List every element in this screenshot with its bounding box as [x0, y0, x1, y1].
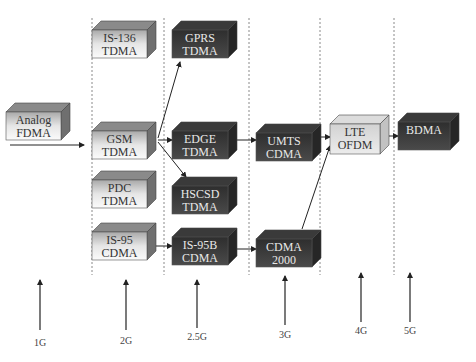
- node-label-line1: GPRS: [185, 31, 215, 45]
- node-label-line1: IS-95B: [183, 238, 218, 252]
- node-umts: UMTSCDMA: [256, 124, 321, 161]
- generation-label: 1G: [34, 337, 46, 348]
- node-label-line2: CDMA: [266, 147, 302, 161]
- box-top-face: [172, 122, 237, 131]
- node-label-line1: GSM: [106, 132, 132, 146]
- node-gsm: GSMTDMA: [92, 122, 156, 159]
- node-label-line1: IS-136: [103, 31, 136, 45]
- node-label-line1: CDMA: [266, 240, 302, 254]
- node-label-line2: TDMA: [102, 145, 138, 159]
- box-top-face: [398, 113, 459, 122]
- generation-label: 3G: [279, 329, 291, 340]
- node-gprs: GPRSTDMA: [172, 21, 237, 58]
- box-top-face: [172, 177, 237, 186]
- node-is95b: IS-95BCDMA: [172, 228, 237, 265]
- node-label-line2: TDMA: [182, 200, 218, 214]
- node-label-line1: HSCSD: [181, 187, 220, 201]
- node-label-line1: LTE: [345, 125, 366, 139]
- node-label-line2: TDMA: [102, 194, 138, 208]
- technology-evolution-diagram: AnalogFDMAIS-136TDMAGSMTDMAPDCTDMAIS-95C…: [0, 0, 476, 362]
- node-label-line1: Analog: [16, 113, 51, 127]
- box-top-face: [256, 230, 321, 239]
- node-label-line2: TDMA: [102, 44, 138, 58]
- node-label-line1: EDGE: [184, 132, 216, 146]
- node-analog: AnalogFDMA: [6, 103, 70, 140]
- node-hscsd: HSCSDTDMA: [172, 177, 237, 214]
- generation-label: 2G: [120, 335, 132, 346]
- node-cdma2000: CDMA2000: [256, 230, 321, 267]
- box-top-face: [92, 171, 156, 180]
- node-label-line1: BDMA: [406, 123, 442, 137]
- box-top-face: [172, 21, 237, 30]
- node-lte: LTEOFDM: [330, 115, 389, 154]
- node-edge: EDGETDMA: [172, 122, 237, 159]
- node-label-line2: OFDM: [338, 138, 373, 152]
- node-label-line2: TDMA: [182, 145, 218, 159]
- generation-markers: 1G2G2.5G3G4G5G: [34, 273, 416, 348]
- node-label-line1: PDC: [108, 181, 131, 195]
- box-top-face: [92, 223, 156, 232]
- generation-label: 5G: [404, 325, 416, 336]
- node-label-line1: IS-95: [106, 233, 133, 247]
- node-label-line2: 2000: [272, 253, 296, 267]
- box-top-face: [256, 124, 321, 133]
- box-top-face: [172, 228, 237, 237]
- box-top-face: [330, 115, 389, 124]
- technology-nodes: AnalogFDMAIS-136TDMAGSMTDMAPDCTDMAIS-95C…: [6, 21, 459, 267]
- box-top-face: [6, 103, 70, 112]
- box-top-face: [92, 122, 156, 131]
- node-is136: IS-136TDMA: [92, 21, 156, 58]
- node-label-line2: FDMA: [16, 126, 51, 140]
- generation-label: 2.5G: [187, 331, 207, 342]
- node-pdc: PDCTDMA: [92, 171, 156, 208]
- node-is95: IS-95CDMA: [92, 223, 156, 260]
- node-label-line2: CDMA: [182, 251, 218, 265]
- node-label-line2: TDMA: [182, 44, 218, 58]
- box-top-face: [92, 21, 156, 30]
- node-bdma: BDMA: [398, 113, 459, 150]
- node-label-line2: CDMA: [101, 246, 137, 260]
- generation-label: 4G: [355, 325, 367, 336]
- node-label-line1: UMTS: [267, 134, 300, 148]
